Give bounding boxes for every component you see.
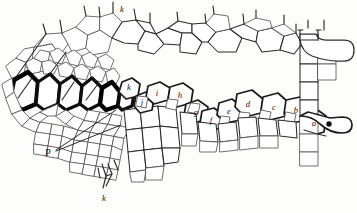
label-k-mid: k bbox=[127, 82, 131, 92]
tissue-section-drawing: k k j i h g f e d c b a P k bbox=[0, 0, 357, 213]
label-d: d bbox=[246, 99, 251, 109]
figure-root: k k j i h g f e d c b a P k bbox=[0, 0, 357, 213]
label-P: P bbox=[45, 147, 51, 158]
label-e: e bbox=[227, 106, 231, 116]
label-a: a bbox=[312, 118, 316, 128]
label-g: g bbox=[194, 107, 199, 117]
label-k-top: k bbox=[120, 4, 124, 14]
label-k-bottom: k bbox=[102, 193, 106, 203]
nucleus-dot bbox=[326, 121, 331, 126]
label-h: h bbox=[178, 90, 182, 100]
label-b: b bbox=[294, 105, 299, 115]
label-c: c bbox=[272, 102, 276, 112]
